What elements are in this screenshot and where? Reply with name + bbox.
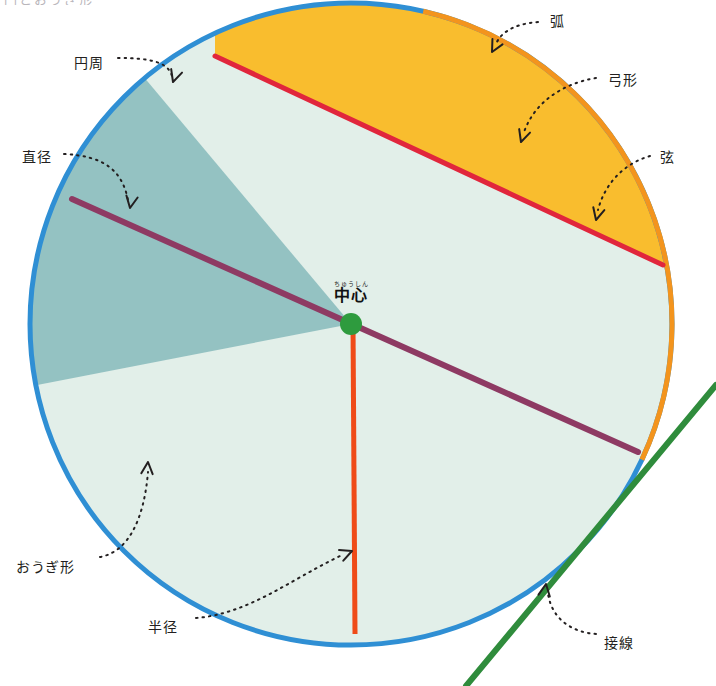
label-radius: 半径 bbox=[148, 620, 177, 634]
label-center-kanji: 中心 bbox=[321, 288, 381, 304]
leader-tangent bbox=[548, 594, 596, 634]
label-chord: 弦 bbox=[660, 150, 675, 164]
center-dot bbox=[340, 313, 362, 335]
label-sector: おうぎ形 bbox=[16, 560, 74, 574]
radius-line bbox=[353, 324, 355, 634]
circle-diagram-svg bbox=[0, 0, 716, 686]
label-circumference: 円周 bbox=[74, 56, 103, 70]
label-diameter: 直径 bbox=[22, 150, 51, 164]
label-segment: 弓形 bbox=[608, 73, 637, 87]
label-center: ちゅうしん 中心 bbox=[321, 281, 381, 304]
figure-canvas: 円とおうぎ形 円周 bbox=[0, 0, 716, 686]
label-arc: 弧 bbox=[550, 14, 565, 28]
label-tangent: 接線 bbox=[604, 636, 633, 650]
